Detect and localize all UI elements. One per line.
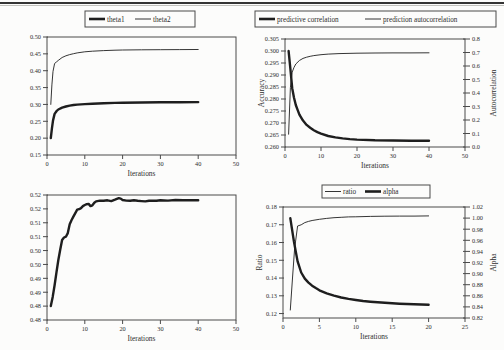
y-tick-label: 0.5 (472, 76, 480, 83)
y-tick-label: 0.295 (265, 59, 279, 66)
y-tick-label: 0.305 (265, 35, 279, 42)
x-tick-label: 10 (82, 325, 88, 332)
y-tick-label: 0.52 (30, 191, 41, 198)
y-tick-label: 0.15 (266, 257, 277, 264)
x-tick-label: 40 (195, 160, 201, 167)
y-tick-label: 0.45 (30, 50, 41, 57)
series-prediction-autocorrelation (289, 53, 429, 134)
legend-label-predictive-correlation: predictive correlation (277, 16, 339, 24)
y-tick-label: 0.50 (30, 261, 41, 268)
chart-bottom-left: 01020304050Iterations0.520.520.510.510.5… (30, 191, 239, 343)
y-tick-label: 0.51 (30, 219, 41, 226)
series-predictive-correlation (289, 51, 429, 141)
y-tick-label: 0.96 (472, 237, 483, 244)
series-theta2 (51, 50, 198, 105)
y-tick-label: 0.285 (265, 83, 279, 90)
y-tick-label: 0.17 (266, 221, 277, 228)
y-tick-label: 0.13 (266, 292, 277, 299)
y-tick-label: 0.51 (30, 233, 41, 240)
y-tick-label: 0.2 (472, 116, 480, 123)
chart-top-left: 01020304050Iterations0.500.450.400.350.3… (30, 11, 239, 178)
x-tick-label: 40 (195, 325, 201, 332)
legend-label-ratio: ratio (343, 188, 357, 196)
y-tick-label: 0.1 (472, 130, 480, 137)
x-tick-label: 10 (318, 152, 324, 159)
chart-top-right: 01020304050Iterations0.3050.3000.2950.29… (255, 11, 498, 170)
x-tick-label: 10 (82, 160, 88, 167)
legend-bottom-right: ratioalpha (322, 185, 430, 198)
figure-page: 01020304050Iterations0.500.450.400.350.3… (0, 0, 504, 350)
y-tick-label: 0.6 (472, 62, 480, 69)
y-tick-label: 0.35 (30, 84, 41, 91)
y-tick-label: 0.275 (265, 107, 279, 114)
y-tick-label: 0.15 (30, 151, 41, 158)
x-tick-label: 0 (45, 160, 48, 167)
x-tick-label: 20 (119, 160, 125, 167)
figure-svg: 01020304050Iterations0.500.450.400.350.3… (0, 0, 504, 350)
y-tick-label: 0.20 (30, 134, 41, 141)
x-tick-label: 5 (318, 323, 321, 330)
y-tick-label: 0.25 (30, 118, 41, 125)
series-theta1 (51, 102, 198, 138)
y-tick-label: 0.18 (266, 203, 277, 210)
axis-title-autocorrelation: Autocorrelation (489, 69, 498, 116)
legend-label-theta1: theta1 (107, 16, 125, 24)
y-tick-label: 0.265 (265, 131, 279, 138)
x-tick-label: 15 (389, 323, 395, 330)
x-tick-label: 40 (426, 152, 432, 159)
y-tick-label: 0.90 (472, 270, 483, 277)
y-tick-label: 0.88 (472, 281, 483, 288)
y-tick-label: 1.00 (472, 214, 483, 221)
legend-top-right: predictive correlationprediction autocor… (255, 11, 496, 27)
x-tick-label: 0 (45, 325, 48, 332)
y-tick-label: 0.270 (265, 119, 279, 126)
y-tick-label: 0.92 (472, 259, 483, 266)
x-tick-label: 20 (354, 152, 360, 159)
x-axis-label: Iterations (361, 161, 389, 170)
y-tick-label: 0.0 (472, 143, 480, 150)
x-tick-label: 30 (157, 325, 163, 332)
y-tick-label: 0.84 (472, 303, 484, 310)
x-tick-label: 50 (233, 160, 239, 167)
axis-title-accuracy: Accuracy (257, 79, 266, 108)
axis-title-alpha: Alpha (489, 253, 498, 272)
x-tick-label: 20 (425, 323, 431, 330)
x-tick-label: 50 (233, 325, 239, 332)
y-tick-label: 0.300 (265, 47, 279, 54)
y-tick-label: 0.4 (472, 89, 481, 96)
x-axis-label: Iterations (128, 334, 156, 343)
legend-label-theta2: theta2 (153, 16, 171, 24)
y-tick-label: 0.7 (472, 49, 480, 56)
y-tick-label: 0.48 (30, 316, 41, 323)
y-tick-label: 0.3 (472, 103, 480, 110)
y-tick-label: 0.16 (266, 239, 277, 246)
legend-top-left: theta1theta2 (85, 11, 195, 27)
y-tick-label: 0.82 (472, 314, 483, 321)
y-tick-label: 0.8 (472, 35, 480, 42)
y-tick-label: 0.86 (472, 292, 483, 299)
series-ratio (290, 216, 428, 310)
x-tick-label: 0 (281, 323, 284, 330)
x-tick-label: 20 (119, 325, 125, 332)
axis-title-ratio: Ratio (255, 254, 264, 270)
y-tick-label: 0.260 (265, 143, 279, 150)
y-tick-label: 0.40 (30, 67, 41, 74)
y-tick-label: 0.48 (30, 302, 41, 309)
y-tick-label: 1.02 (472, 203, 483, 210)
y-tick-label: 0.52 (30, 205, 41, 212)
y-tick-label: 0.280 (265, 95, 279, 102)
x-tick-label: 10 (353, 323, 359, 330)
chart-bottom-right: 0510152025Iterations0.180.170.160.150.14… (255, 185, 498, 341)
y-tick-label: 0.98 (472, 226, 483, 233)
y-tick-label: 0.94 (472, 248, 484, 255)
y-tick-label: 0.14 (266, 274, 278, 281)
x-axis-label: Iterations (128, 169, 156, 178)
plot-frame (47, 37, 236, 155)
legend-label-alpha: alpha (383, 188, 399, 196)
y-tick-label: 0.49 (30, 289, 41, 296)
x-axis-label: Iterations (360, 332, 388, 341)
x-tick-label: 30 (390, 152, 396, 159)
x-tick-label: 25 (462, 323, 468, 330)
y-tick-label: 0.50 (30, 247, 41, 254)
series-ratio-curve (51, 198, 198, 306)
